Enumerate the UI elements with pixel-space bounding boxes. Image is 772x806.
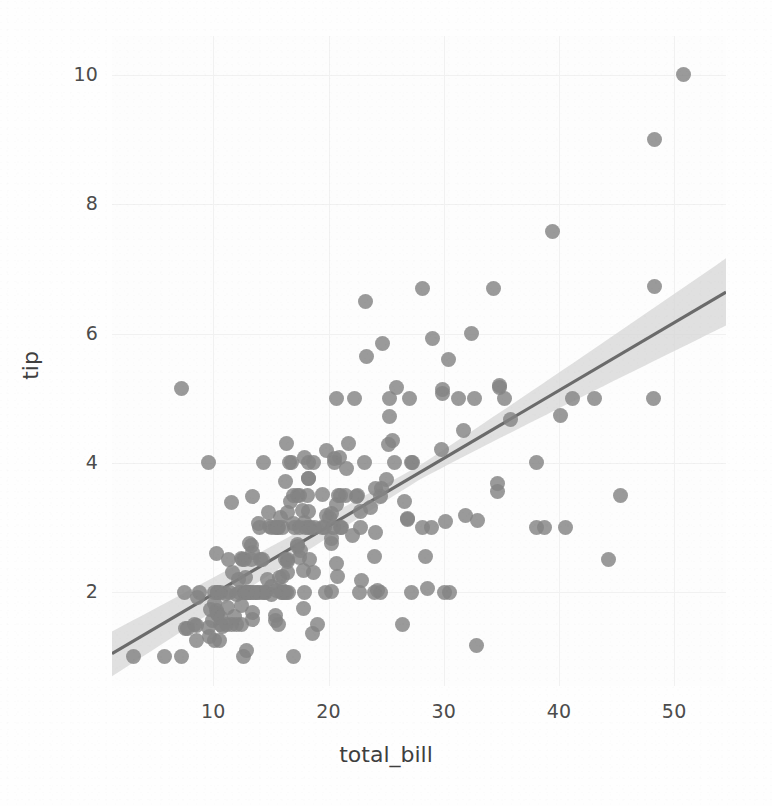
scatter-point: [244, 552, 259, 567]
scatter-point: [492, 380, 507, 395]
scatter-point: [306, 565, 321, 580]
scatter-point: [367, 549, 382, 564]
scatter-point: [330, 569, 345, 584]
x-tick-label: 50: [644, 700, 704, 722]
scatter-point: [470, 513, 485, 528]
scatter-point: [297, 585, 312, 600]
scatter-point: [420, 581, 435, 596]
scatter-point: [190, 590, 205, 605]
scatter-point: [404, 585, 419, 600]
scatter-point: [379, 472, 394, 487]
figure-canvas: 246810 1020304050 total_bill tip: [0, 0, 772, 806]
scatter-point: [290, 537, 305, 552]
scatter-point: [486, 281, 501, 296]
scatter-point: [347, 391, 362, 406]
scatter-point: [329, 391, 344, 406]
scatter-point: [207, 585, 222, 600]
scatter-point: [397, 494, 412, 509]
x-tick-label: 20: [299, 700, 359, 722]
scatter-point: [418, 549, 433, 564]
scatter-point: [456, 423, 471, 438]
scatter-point: [437, 585, 452, 600]
scatter-point: [490, 476, 505, 491]
scatter-point: [279, 436, 294, 451]
scatter-point: [231, 572, 246, 587]
scatter-point: [353, 504, 368, 519]
x-tick-label: 30: [414, 700, 474, 722]
plot-area: [112, 36, 726, 686]
scatter-point: [558, 520, 573, 535]
scatter-point: [613, 488, 628, 503]
x-axis-title: total_bill: [0, 742, 772, 767]
scatter-point: [464, 326, 479, 341]
scatter-point: [435, 382, 450, 397]
scatter-point: [537, 520, 552, 535]
scatter-point: [215, 619, 230, 634]
scatter-point: [375, 336, 390, 351]
y-axis-title: tip: [18, 316, 43, 416]
scatter-point: [244, 538, 259, 553]
scatter-point: [270, 520, 285, 535]
scatter-point: [358, 294, 373, 309]
scatter-point: [296, 601, 311, 616]
scatter-point: [565, 391, 580, 406]
scatter-point: [189, 633, 204, 648]
scatter-point: [341, 436, 356, 451]
y-tick-label: 4: [38, 451, 98, 473]
x-tick-label: 10: [183, 700, 243, 722]
scatter-point: [467, 391, 482, 406]
scatter-point: [307, 520, 322, 535]
y-tick-label: 8: [38, 192, 98, 214]
x-tick-label: 40: [529, 700, 589, 722]
scatter-point: [180, 621, 195, 636]
scatter-point: [587, 391, 602, 406]
y-tick-label: 10: [38, 63, 98, 85]
scatter-point: [451, 391, 466, 406]
scatter-point: [256, 455, 271, 470]
scatter-point: [441, 352, 456, 367]
scatter-point: [646, 391, 661, 406]
scatter-point: [301, 504, 316, 519]
scatter-point: [359, 349, 374, 364]
y-tick-label: 6: [38, 322, 98, 344]
scatter-point: [545, 224, 560, 239]
scatter-point: [415, 520, 430, 535]
scatter-point: [647, 279, 662, 294]
scatter-point: [381, 437, 396, 452]
scatter-point: [395, 617, 410, 632]
y-tick-label: 2: [38, 580, 98, 602]
scatter-point: [402, 391, 417, 406]
scatter-point: [367, 585, 382, 600]
scatter-point: [301, 471, 316, 486]
scatter-point: [352, 585, 367, 600]
scatter-point: [252, 520, 267, 535]
scatter-point: [438, 514, 453, 529]
scatter-point: [415, 281, 430, 296]
scatter-point: [400, 511, 415, 526]
scatter-point: [300, 488, 315, 503]
scatter-point: [207, 633, 222, 648]
scatter-point: [282, 455, 297, 470]
